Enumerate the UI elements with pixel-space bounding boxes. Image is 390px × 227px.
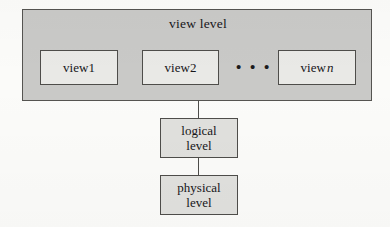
connector-logical-to-physical xyxy=(198,157,199,176)
view-box-2-label: view xyxy=(165,60,190,76)
physical-level-box: physical level xyxy=(160,175,238,215)
view-level-label: view level xyxy=(23,16,373,32)
architecture-diagram: view level view 1 view 2 • • • view n lo… xyxy=(0,0,390,227)
ellipsis-icon: • • • xyxy=(232,58,276,76)
logical-level-box: logical level xyxy=(160,118,238,158)
physical-level-label-line1: physical xyxy=(177,180,220,195)
view-box-1-label: view xyxy=(63,60,88,76)
view-box-1: view 1 xyxy=(40,50,118,85)
view-box-2-index: 2 xyxy=(190,60,197,76)
view-box-n-index: n xyxy=(326,60,334,76)
view-box-n: view n xyxy=(278,50,356,85)
logical-level-label-line2: level xyxy=(186,138,211,153)
connector-view-to-logical xyxy=(198,100,199,119)
physical-level-label-line2: level xyxy=(186,195,211,210)
logical-level-label-line1: logical xyxy=(181,123,216,138)
view-box-n-label: view xyxy=(301,60,326,76)
view-box-2: view 2 xyxy=(142,50,219,85)
view-box-1-index: 1 xyxy=(88,60,95,76)
